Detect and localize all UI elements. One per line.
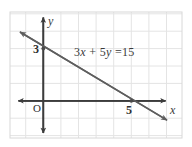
- coordinate-plane: [0, 0, 192, 147]
- y-axis-label: y: [48, 15, 53, 27]
- x-intercept-label: 5: [126, 104, 132, 116]
- equation-var-x: x: [80, 45, 86, 59]
- x-axis-label: x: [170, 104, 175, 116]
- equation-var-y: y: [106, 45, 112, 59]
- equation-constant: 15: [122, 45, 135, 59]
- origin-label: O: [33, 103, 41, 114]
- equation-operator: +: [89, 45, 96, 59]
- equation-equals: =: [115, 45, 122, 59]
- point-y-intercept: [41, 47, 45, 51]
- graph-figure: y x O 3 5 3x + 5y =15: [0, 0, 192, 147]
- y-intercept-label: 3: [33, 43, 39, 55]
- equation-annotation: 3x + 5y =15: [74, 46, 135, 58]
